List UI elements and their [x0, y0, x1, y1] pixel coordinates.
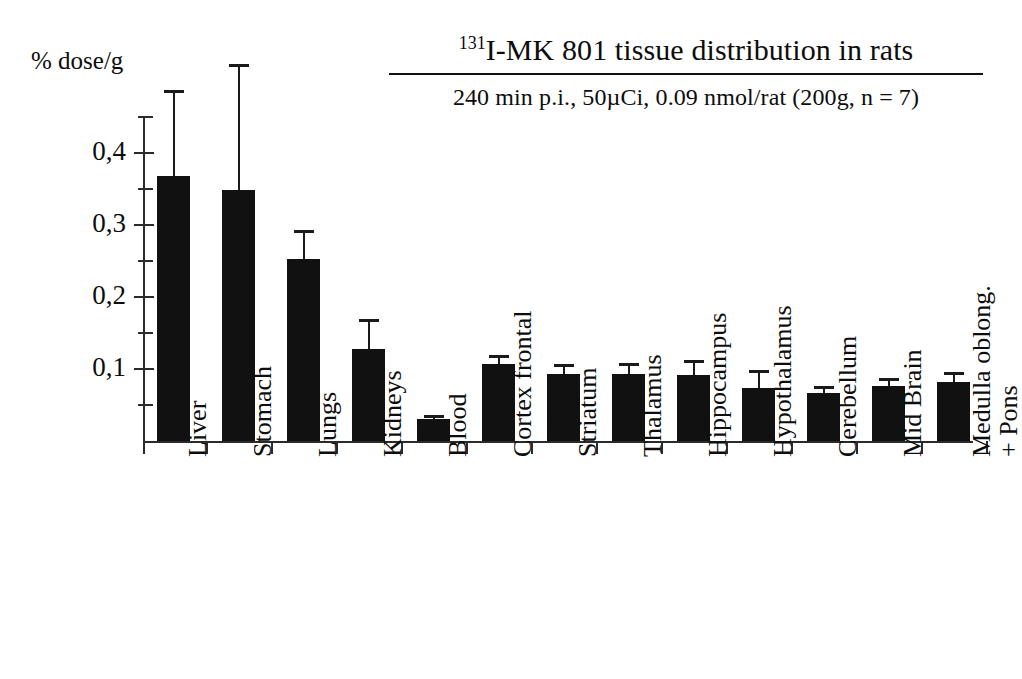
y-axis-tick-label: 0,2: [48, 282, 126, 309]
x-axis-category-label: Hippocampus: [705, 313, 732, 457]
error-bar-cap: [359, 319, 379, 322]
error-bar-stem: [238, 64, 240, 190]
error-bar-cap: [164, 90, 184, 93]
error-bar-cap: [944, 372, 964, 375]
y-axis-tick-major: [134, 224, 154, 226]
y-axis-tick-label: 0,1: [48, 354, 126, 381]
error-bar-cap: [749, 370, 769, 373]
x-axis-category-label: Cerebellum: [835, 336, 862, 457]
y-axis-tick-minor: [138, 332, 153, 334]
y-axis-tick-major: [134, 152, 154, 154]
y-axis-tick-minor: [138, 188, 153, 190]
error-bar-cap: [879, 378, 899, 381]
y-axis-tick-label: 0,4: [48, 138, 126, 165]
error-bar-stem: [173, 90, 175, 176]
x-axis-category-label: Liver: [185, 401, 212, 457]
x-axis-category-label: Stomach: [250, 366, 277, 457]
x-axis-category-label: Medulla oblong. + Pons: [968, 285, 1022, 457]
bar: [937, 382, 970, 441]
x-axis-category-label: Mid Brain: [900, 349, 927, 457]
x-axis-tick: [143, 441, 145, 454]
x-axis-category-label: Blood: [445, 393, 472, 457]
error-bar-cap: [294, 230, 314, 233]
error-bar-cap: [619, 363, 639, 366]
y-axis-line: [143, 117, 145, 443]
x-axis-category-label: Hypothalamus: [770, 305, 797, 457]
error-bar-stem: [368, 319, 370, 349]
y-axis-tick-major: [134, 296, 154, 298]
y-axis-tick-minor: [138, 260, 153, 262]
x-axis-category-label: Lungs: [315, 392, 342, 457]
error-bar-cap: [814, 386, 834, 389]
y-axis-tick-major: [134, 368, 154, 370]
y-axis-tick-minor: [138, 404, 153, 406]
y-axis-tick-minor: [138, 116, 153, 118]
error-bar-cap: [684, 360, 704, 363]
y-axis-tick-label: 0,3: [48, 210, 126, 237]
x-axis-category-label: Thalamus: [640, 354, 667, 457]
error-bar-cap: [229, 64, 249, 67]
error-bar-cap: [489, 355, 509, 358]
error-bar-stem: [303, 230, 305, 259]
error-bar-cap: [424, 415, 444, 418]
x-axis-category-label: Kidneys: [380, 370, 407, 457]
error-bar-cap: [554, 364, 574, 367]
x-axis-category-label: Striatum: [575, 367, 602, 457]
x-axis-category-label: Cortex frontal: [510, 310, 537, 457]
